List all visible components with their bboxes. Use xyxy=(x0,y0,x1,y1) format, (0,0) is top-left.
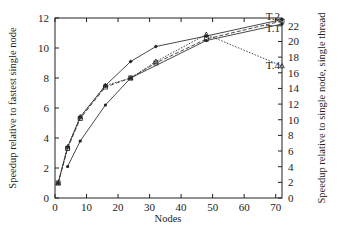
series-line-T.4 xyxy=(58,35,282,184)
x-tick-label: 70 xyxy=(270,201,282,213)
y2-tick-label: 8 xyxy=(288,129,294,141)
marker-dot xyxy=(280,22,283,25)
y-tick-label: 6 xyxy=(44,102,50,114)
y-tick-label: 4 xyxy=(44,132,50,144)
y2-tick-label: 18 xyxy=(288,51,300,63)
y2-tick-label: 22 xyxy=(288,20,299,32)
y-tick-label: 12 xyxy=(38,12,49,24)
y2-tick-label: 16 xyxy=(288,67,300,79)
y-tick-label: 10 xyxy=(38,42,50,54)
y2-tick-label: 0 xyxy=(288,192,294,204)
x-axis-label: Nodes xyxy=(155,213,182,224)
y2-tick-label: 12 xyxy=(288,98,299,110)
y2-axis-label: Speedup relative to single node, single … xyxy=(316,12,327,204)
plot-area: 0102030405060700246810120246810121416182… xyxy=(38,10,300,214)
series-label-T.2: T.2 xyxy=(266,10,280,22)
series-line-T.2 xyxy=(58,20,282,184)
x-tick-label: 50 xyxy=(207,201,219,213)
marker-dot xyxy=(205,39,208,42)
marker-dot xyxy=(66,165,69,168)
x-tick-label: 60 xyxy=(239,201,251,213)
marker-dot xyxy=(79,139,82,142)
x-tick-label: 10 xyxy=(81,201,93,213)
y-tick-label: 8 xyxy=(44,72,50,84)
y-axis-label: Speedup relative to fastest single node xyxy=(7,27,18,189)
y2-tick-label: 2 xyxy=(288,176,294,188)
y-tick-label: 2 xyxy=(44,162,50,174)
y-tick-label: 0 xyxy=(44,192,50,204)
marker-dot xyxy=(104,103,107,106)
x-tick-label: 40 xyxy=(176,201,188,213)
x-tick-label: 0 xyxy=(52,201,58,213)
y2-tick-label: 20 xyxy=(288,35,300,47)
speedup-chart: 0102030405060700246810120246810121416182… xyxy=(0,0,338,231)
marker-diamond xyxy=(154,45,158,49)
y2-tick-label: 4 xyxy=(288,161,294,173)
y2-tick-label: 10 xyxy=(288,114,300,126)
series-label-T.4: T.4 xyxy=(266,59,281,71)
x-tick-label: 20 xyxy=(113,201,125,213)
series-line-T.1 xyxy=(68,24,282,167)
y2-tick-label: 14 xyxy=(288,82,300,94)
y2-tick-label: 6 xyxy=(288,145,294,157)
x-tick-label: 30 xyxy=(144,201,156,213)
plot-frame xyxy=(55,18,282,198)
series-label-T.1: T.1 xyxy=(266,22,280,34)
